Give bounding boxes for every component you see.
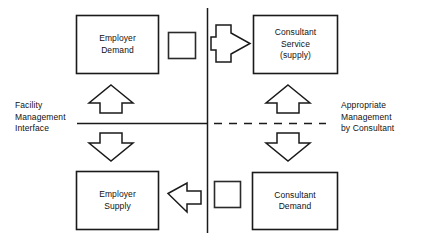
arrow-employer-demand-to-consultant-service-icon	[211, 25, 250, 62]
box-label-consultant-demand: ConsultantDemand	[252, 172, 338, 230]
arrow-consultant-service-down-to-consultant-demand-icon	[266, 133, 310, 161]
diagram-canvas: EmployerDemand ConsultantService(supply)…	[0, 0, 424, 241]
arrow-employer-supply-up-to-employer-demand-icon	[89, 85, 133, 113]
box-label-employer-supply: EmployerSupply	[76, 171, 159, 230]
label-appropriate-management-by-consultant: AppropriateManagementby Consultant	[341, 100, 421, 135]
box-label-consultant-service-supply: ConsultantService(supply)	[253, 15, 338, 74]
small-square-top	[169, 33, 196, 59]
box-label-employer-demand: EmployerDemand	[76, 15, 159, 74]
arrow-consultant-demand-up-to-consultant-service-icon	[266, 85, 310, 113]
small-square-bottom	[215, 182, 241, 208]
label-facility-management-interface: FacilityManagementInterface	[15, 100, 85, 135]
arrow-employer-demand-down-to-employer-supply-icon	[89, 133, 133, 161]
arrow-consultant-demand-to-employer-supply-icon	[168, 183, 201, 212]
